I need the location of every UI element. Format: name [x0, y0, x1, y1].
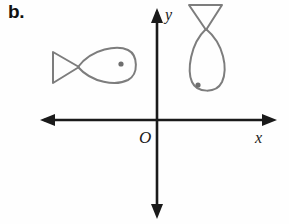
fish-right-body [190, 29, 225, 91]
x-axis-left-arrowhead [40, 114, 55, 126]
fish-right-tail [189, 5, 222, 30]
y-axis-top-arrowhead [151, 8, 163, 23]
fish-left-eye [118, 61, 123, 66]
origin-label: O [139, 128, 151, 147]
y-axis-label: y [163, 6, 173, 24]
fish-right [189, 5, 225, 91]
fish-left [53, 48, 136, 83]
y-axis-bottom-arrowhead [151, 204, 163, 219]
figure-canvas: b. y x O [0, 0, 289, 224]
x-axis-label: x [254, 129, 262, 146]
fish-left-body [78, 48, 136, 83]
fish-left-tail [53, 52, 79, 83]
coordinate-plane-figure: y x O [0, 0, 289, 224]
fish-right-eye [195, 82, 200, 87]
x-axis-right-arrowhead [262, 114, 277, 126]
axes-group: y x O [40, 6, 277, 219]
